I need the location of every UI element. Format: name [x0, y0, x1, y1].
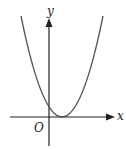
graph-canvas [0, 0, 126, 149]
origin-label: O [34, 122, 44, 134]
y-axis-arrow-icon [46, 18, 53, 27]
parabola-diagram: y x O [0, 0, 126, 149]
x-axis-label: x [117, 110, 124, 122]
parabola-curve [21, 16, 103, 117]
x-axis-arrow-icon [106, 114, 115, 121]
y-axis-label: y [47, 5, 54, 17]
